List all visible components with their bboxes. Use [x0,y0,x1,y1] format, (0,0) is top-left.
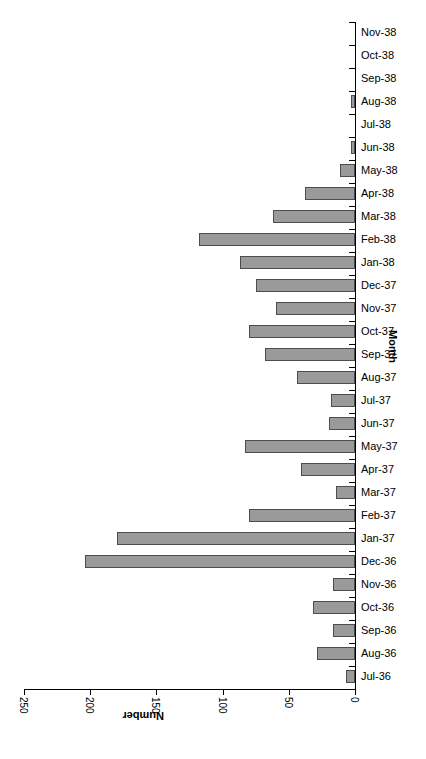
category-tick-label: Oct-36 [361,602,394,613]
value-tick-label: 200 [84,697,94,714]
category-tick-label: Nov-38 [361,27,396,38]
category-tick-label: Jun-38 [361,142,395,153]
bar-row [0,643,355,665]
value-tick [90,689,91,695]
value-tick-label: 50 [283,697,293,708]
bar [351,141,355,154]
bar-row [0,68,355,90]
bar-row [0,298,355,320]
bar-row [0,22,355,44]
bar-row [0,45,355,67]
value-tick-label: 100 [217,697,227,714]
category-tick-label: Sep-36 [361,625,396,636]
bar-row [0,574,355,596]
bar [346,670,355,683]
bar-row [0,620,355,642]
category-tick-label: Jul-38 [361,119,391,130]
bar [265,348,355,361]
category-tick-label: Mar-37 [361,487,396,498]
bar [317,647,355,660]
category-tick-label: Sep-38 [361,73,396,84]
category-tick-label: Dec-36 [361,556,396,567]
bar-row [0,183,355,205]
category-tick-label: May-38 [361,165,398,176]
bar-row [0,160,355,182]
bar [199,233,355,246]
value-tick-label: 250 [18,697,28,714]
bar [301,463,355,476]
bar-row [0,505,355,527]
bar [331,394,355,407]
value-axis-line [24,689,356,690]
x-axis-title: Number [122,710,164,722]
category-tick-label: Mar-38 [361,211,396,222]
bar-row [0,344,355,366]
bar [273,210,355,223]
category-tick-label: Jan-38 [361,257,395,268]
bar-row [0,666,355,688]
bar [240,256,355,269]
bar [333,624,356,637]
value-tick [156,689,157,695]
category-tick-label: Aug-38 [361,96,396,107]
plot-area: Nov-38Oct-38Sep-38Aug-38Jul-38Jun-38May-… [0,0,426,759]
bar-row [0,137,355,159]
bar-row [0,275,355,297]
category-tick-label: Feb-37 [361,510,396,521]
category-tick-label: Aug-36 [361,648,396,659]
category-tick-label: Nov-37 [361,303,396,314]
value-tick [355,689,356,695]
category-tick-label: Jan-37 [361,533,395,544]
bar-row [0,252,355,274]
bar [336,486,355,499]
bar [117,532,355,545]
bar [297,371,355,384]
category-tick-label: Jun-37 [361,418,395,429]
category-tick-label: Apr-37 [361,464,394,475]
bar-row [0,459,355,481]
bar-row [0,229,355,251]
bar [85,555,355,568]
y-axis-title: Month [387,330,399,363]
category-tick-label: Jul-37 [361,395,391,406]
bar [340,164,355,177]
bar-row [0,551,355,573]
bar-chart: Nov-38Oct-38Sep-38Aug-38Jul-38Jun-38May-… [0,0,426,759]
category-axis-line [355,22,356,689]
category-tick-label: Jul-36 [361,671,391,682]
bar [329,417,355,430]
category-tick-label: Feb-38 [361,234,396,245]
category-tick-label: Nov-36 [361,579,396,590]
value-tick [24,689,25,695]
bar-row [0,114,355,136]
bar-row [0,390,355,412]
category-tick-label: Apr-38 [361,188,394,199]
value-tick [223,689,224,695]
bar-row [0,91,355,113]
bar [305,187,355,200]
bar-row [0,321,355,343]
category-tick-label: Aug-37 [361,372,396,383]
bar [245,440,355,453]
category-tick-label: Oct-38 [361,50,394,61]
category-tick-label: Dec-37 [361,280,396,291]
bar-row [0,482,355,504]
value-tick [289,689,290,695]
bar-row [0,413,355,435]
bar [256,279,355,292]
bar [276,302,355,315]
bar [333,578,356,591]
category-tick-label: May-37 [361,441,398,452]
bar [249,325,355,338]
bar-row [0,597,355,619]
bar-row [0,367,355,389]
bar-row [0,206,355,228]
bar [313,601,355,614]
bar [351,95,355,108]
bar-row [0,528,355,550]
bar [249,509,355,522]
value-tick-label: 0 [349,697,359,703]
bar-row [0,436,355,458]
